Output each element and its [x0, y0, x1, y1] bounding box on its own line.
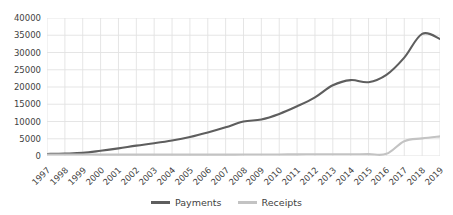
plot-area: [47, 18, 440, 156]
y-axis-tick-label: 5000: [19, 134, 41, 144]
x-axis-tick-label: 2010: [262, 165, 284, 187]
x-axis-tick-label: 1998: [48, 165, 70, 187]
x-axis-tick-label: 2003: [137, 165, 159, 187]
x-axis-tick-label: 2014: [333, 165, 355, 187]
legend-label-payments: Payments: [175, 197, 222, 208]
y-axis-tick-label: 20000: [14, 82, 41, 92]
x-axis-tick-label: 2016: [369, 165, 391, 187]
series-lines: [47, 18, 440, 156]
y-axis-tick-label: 10000: [14, 117, 41, 127]
x-axis-tick-label: 2013: [316, 165, 338, 187]
y-axis-tick-label: 40000: [14, 13, 41, 23]
x-axis-tick-label: 2005: [173, 165, 195, 187]
x-axis-tick-label: 2012: [298, 165, 320, 187]
x-axis-tick-label: 2008: [226, 165, 248, 187]
y-axis-tick-label: 25000: [14, 65, 41, 75]
chart-legend: Payments Receipts: [0, 192, 453, 212]
x-axis-tick-label: 2009: [244, 165, 266, 187]
x-axis-tick-label: 2019: [423, 165, 445, 187]
x-axis-tick-label: 2017: [387, 165, 409, 187]
x-axis-tick-label: 2007: [208, 165, 230, 187]
legend-item-receipts[interactable]: Receipts: [238, 197, 302, 208]
x-axis-tick-label: 2000: [83, 165, 105, 187]
x-axis-tick-label: 2015: [351, 165, 373, 187]
legend-item-payments[interactable]: Payments: [151, 197, 222, 208]
x-axis-tick-label: 2004: [155, 165, 177, 187]
x-axis: 1997199819992000200120022003200420052006…: [47, 156, 440, 196]
x-axis-tick-label: 2006: [191, 165, 213, 187]
x-axis-tick-label: 2001: [101, 165, 123, 187]
y-axis-tick-label: 0: [36, 151, 41, 161]
legend-label-receipts: Receipts: [262, 197, 302, 208]
y-axis-tick-label: 15000: [14, 99, 41, 109]
series-line-receipts: [47, 136, 440, 155]
legend-swatch-receipts: [238, 201, 257, 204]
x-axis-tick-label: 2002: [119, 165, 141, 187]
series-line-payments: [47, 33, 440, 154]
y-axis-tick-label: 30000: [14, 48, 41, 58]
x-axis-tick-label: 1999: [66, 165, 88, 187]
x-axis-tick-label: 2018: [405, 165, 427, 187]
y-axis-tick-label: 35000: [14, 30, 41, 40]
legend-swatch-payments: [151, 201, 170, 204]
x-axis-tick-label: 2011: [280, 165, 302, 187]
line-chart: 4000035000300002500020000150001000050000…: [0, 0, 453, 215]
